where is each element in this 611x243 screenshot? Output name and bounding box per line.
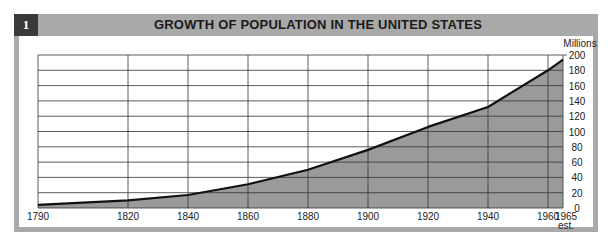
- x-tick-label: 1900: [357, 211, 380, 222]
- population-area: [38, 60, 563, 208]
- x-tick-label: 1790: [27, 211, 50, 222]
- x-tick-label: 1880: [297, 211, 320, 222]
- y-tick-label: 80: [571, 142, 583, 153]
- y-tick-label: 200: [569, 50, 586, 61]
- y-axis-title: Millions: [563, 38, 596, 49]
- y-tick-label: 160: [569, 81, 586, 92]
- y-tick-label: 180: [569, 65, 586, 76]
- y-tick-label: 100: [569, 127, 586, 138]
- x-tick-label: 1920: [417, 211, 440, 222]
- y-tick-label: 140: [569, 96, 586, 107]
- x-tick-annotation: est.: [558, 220, 574, 231]
- y-tick-label: 120: [569, 111, 586, 122]
- y-tick-label: 60: [571, 157, 583, 168]
- x-tick-label: 1860: [237, 211, 260, 222]
- x-tick-label: 1840: [177, 211, 200, 222]
- population-chart: 0204060801001201401601802001790182018401…: [0, 0, 611, 243]
- y-tick-label: 20: [571, 188, 583, 199]
- x-tick-label: 1820: [117, 211, 140, 222]
- x-tick-label: 1940: [477, 211, 500, 222]
- y-tick-label: 40: [571, 172, 583, 183]
